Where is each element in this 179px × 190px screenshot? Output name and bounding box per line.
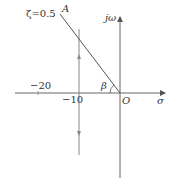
angle-beta-label: β bbox=[100, 80, 107, 91]
damping-line-label: ζ=0.5 bbox=[26, 8, 56, 19]
locus-arrow-down-icon bbox=[77, 131, 81, 136]
tick-minus-10-label: −10 bbox=[62, 94, 83, 105]
locus-arrow-up-icon bbox=[77, 54, 81, 59]
angle-beta-arc bbox=[110, 85, 114, 93]
s-plane-diagram: ζ=0.5 A jω σ O β −20 −10 bbox=[0, 0, 179, 190]
tick-minus-20-label: −20 bbox=[30, 80, 51, 91]
real-axis-label: σ bbox=[157, 95, 165, 106]
damping-ratio-line bbox=[60, 14, 120, 93]
origin-label: O bbox=[122, 95, 130, 106]
point-a-label: A bbox=[61, 3, 69, 14]
imag-axis-label: jω bbox=[103, 12, 116, 23]
